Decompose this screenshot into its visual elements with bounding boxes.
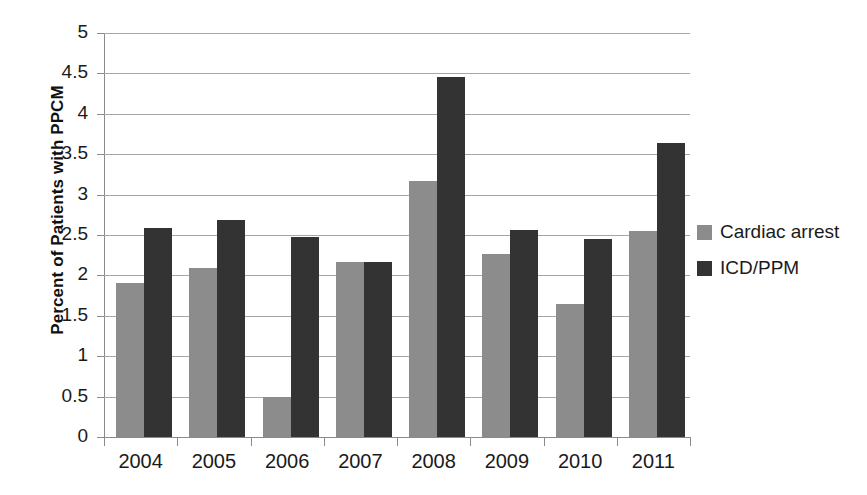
bar xyxy=(657,143,685,437)
bar xyxy=(291,237,319,437)
bar-group xyxy=(544,33,617,437)
y-tick-label: 0 xyxy=(18,425,88,447)
x-tick-label: 2010 xyxy=(543,450,617,473)
x-tick-mark xyxy=(397,437,398,446)
y-tick-label: 4.5 xyxy=(18,61,88,83)
bar xyxy=(437,77,465,437)
legend-swatch-icon xyxy=(697,225,712,240)
legend-label: ICD/PPM xyxy=(720,257,799,279)
x-tick-mark xyxy=(544,437,545,446)
bar-group xyxy=(324,33,397,437)
y-tick-label: 1.5 xyxy=(18,304,88,326)
legend-item: Cardiac arrest xyxy=(697,217,839,247)
bar-chart: Percent of Patients with PPCM 00.511.522… xyxy=(0,0,867,495)
plot-area xyxy=(104,33,690,437)
y-tick-label: 2.5 xyxy=(18,223,88,245)
y-tick-label: 3 xyxy=(18,183,88,205)
y-tick-label: 5 xyxy=(18,21,88,43)
x-tick-label: 2004 xyxy=(104,450,178,473)
bar-group xyxy=(617,33,690,437)
bar xyxy=(263,397,291,437)
bar xyxy=(556,304,584,437)
bar xyxy=(510,230,538,437)
x-tick-label: 2006 xyxy=(250,450,324,473)
bar xyxy=(482,254,510,437)
legend-item: ICD/PPM xyxy=(697,253,839,283)
chart-legend: Cardiac arrestICD/PPM xyxy=(697,217,839,289)
bar-group xyxy=(177,33,250,437)
y-tick-label: 0.5 xyxy=(18,385,88,407)
y-tick-label: 2 xyxy=(18,263,88,285)
bar-group xyxy=(104,33,177,437)
bar xyxy=(189,268,217,437)
legend-swatch-icon xyxy=(697,261,712,276)
x-tick-mark xyxy=(617,437,618,446)
x-tick-label: 2007 xyxy=(323,450,397,473)
y-tick-label: 3.5 xyxy=(18,142,88,164)
bar xyxy=(144,228,172,437)
y-tick-label: 4 xyxy=(18,102,88,124)
x-tick-label: 2005 xyxy=(177,450,251,473)
bar xyxy=(336,262,364,437)
x-tick-mark xyxy=(470,437,471,446)
bar xyxy=(217,220,245,437)
x-tick-label: 2009 xyxy=(470,450,544,473)
bar xyxy=(364,262,392,437)
x-tick-label: 2011 xyxy=(616,450,690,473)
bar-group xyxy=(397,33,470,437)
bar-group xyxy=(251,33,324,437)
bar xyxy=(409,181,437,437)
x-tick-mark xyxy=(251,437,252,446)
bar xyxy=(629,231,657,437)
x-tick-mark xyxy=(104,437,105,446)
x-tick-mark xyxy=(177,437,178,446)
x-tick-mark xyxy=(690,437,691,446)
bar xyxy=(116,283,144,437)
legend-label: Cardiac arrest xyxy=(720,221,839,243)
bar xyxy=(584,239,612,437)
x-tick-label: 2008 xyxy=(397,450,471,473)
bar-group xyxy=(470,33,543,437)
y-tick-label: 1 xyxy=(18,344,88,366)
x-tick-mark xyxy=(324,437,325,446)
